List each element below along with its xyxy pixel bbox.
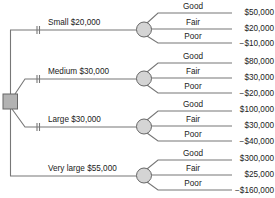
payoff-value: −$40,000 — [240, 138, 274, 146]
chance-node-verylarge — [137, 168, 152, 183]
outcome-label-good: Good — [173, 101, 213, 109]
branch-small-line — [11, 30, 138, 94]
payoff-value: −$10,000 — [240, 40, 274, 48]
alternative-label-medium: Medium $30,000 — [48, 68, 109, 76]
outcome-label-good: Good — [173, 3, 213, 11]
payoff-value: $300,000 — [240, 155, 274, 163]
payoff-value: $30,000 — [244, 122, 274, 130]
chance-node-small — [137, 22, 152, 37]
outcome-label-good: Good — [173, 150, 213, 158]
alternative-label-small: Small $20,000 — [48, 19, 100, 27]
branch-medium-line — [15, 79, 137, 94]
decision-tree-lines — [0, 0, 275, 198]
outcome-label-fair: Fair — [173, 68, 213, 76]
alternative-label-verylarge: Very large $55,000 — [48, 165, 117, 173]
payoff-value: $100,000 — [240, 106, 274, 114]
decision-node — [3, 94, 18, 109]
payoff-value: −$20,000 — [240, 90, 274, 98]
payoff-value: −$160,000 — [235, 187, 274, 195]
outcome-label-poor: Poor — [173, 33, 213, 41]
payoff-value: $30,000 — [244, 74, 274, 82]
chance-node-large — [137, 119, 152, 134]
outcome-label-poor: Poor — [173, 83, 213, 91]
payoff-value: $80,000 — [244, 58, 274, 66]
payoff-value: $20,000 — [244, 25, 274, 33]
chance-node-medium — [137, 71, 152, 86]
outcome-label-poor: Poor — [173, 180, 213, 188]
outcome-label-fair: Fair — [173, 116, 213, 124]
outcome-label-fair: Fair — [173, 19, 213, 27]
alternative-label-large: Large $30,000 — [48, 116, 101, 124]
outcome-label-poor: Poor — [173, 131, 213, 139]
outcome-label-fair: Fair — [173, 165, 213, 173]
payoff-value: $50,000 — [244, 9, 274, 17]
outcome-label-good: Good — [173, 53, 213, 61]
payoff-value: $25,000 — [244, 171, 274, 179]
